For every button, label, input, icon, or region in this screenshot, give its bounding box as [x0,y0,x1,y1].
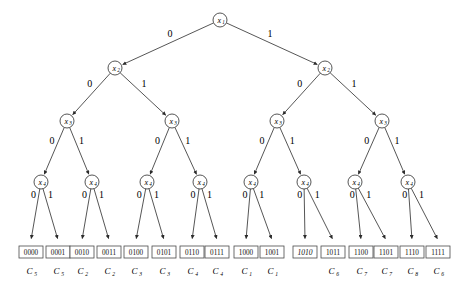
edge-label-left: 0 [297,78,302,89]
leaf-code-box[interactable]: 0000 [19,246,43,258]
edge-label-right: 1 [141,78,146,89]
leaf-code-box[interactable]: 0111 [205,246,229,258]
class-labels-group: C5C5C2C2C3C3C4C4C1C1C6C7C7C8C6 [26,266,444,277]
node-variable-subscript: 3 [174,120,177,126]
leaf-code-box[interactable]: 1111 [426,246,450,258]
node-variable-letter: x [197,178,202,187]
leaf-code-box[interactable]: 0011 [97,246,121,258]
leaf-code-text: 0111 [210,249,224,257]
node-variable-letter: x [112,64,117,73]
tree-node-x3[interactable]: x3 [270,114,284,128]
leaf-code-text: 0101 [157,249,172,257]
node-variable-letter: x [38,178,43,187]
tree-node-x4[interactable]: x4 [85,175,99,189]
leaf-code-box[interactable]: 1110 [400,246,424,258]
edge-label-left: 0 [87,78,92,89]
leaf-edge-label-right: 1 [48,189,53,200]
class-subscript: 1 [275,271,278,277]
leaf-code-box[interactable]: 0110 [180,246,204,258]
leaf-edge-label-right: 1 [315,189,320,200]
class-letter: C [407,266,414,276]
leaf-code-box[interactable]: 1011 [321,246,345,258]
class-subscript: 7 [389,271,392,277]
node-variable-letter: x [248,178,253,187]
leaf-class-label: C2 [104,266,115,277]
tree-node-x4[interactable]: x4 [348,175,362,189]
leaf-edge-label-right: 1 [207,189,212,200]
leaf-edge-label-left: 0 [243,189,248,200]
leaf-code-text: 1110 [405,249,419,257]
tree-node-x4[interactable]: x4 [297,175,311,189]
leaf-code-text: 1100 [354,249,369,257]
node-variable-letter: x [405,178,410,187]
class-letter: C [356,266,363,276]
tree-node-x1[interactable]: x1 [213,13,227,27]
leaf-code-box[interactable]: 1001 [260,246,284,258]
leaf-class-label: C3 [131,266,142,277]
leaf-class-label: C7 [381,266,392,277]
leaf-code-text: 1001 [265,249,280,257]
node-variable-subscript: 4 [94,181,97,187]
node-variable-letter: x [322,64,327,73]
leaf-code-box[interactable]: 0101 [152,246,176,258]
class-letter: C [159,266,166,276]
leaf-class-label: C6 [433,266,444,277]
edge-label-left: 0 [260,135,265,146]
leaf-class-label: C5 [53,266,64,277]
tree-node-x4[interactable]: x4 [401,175,415,189]
leaf-code-box[interactable]: 1000 [234,246,258,258]
node-variable-letter: x [274,117,279,126]
leaf-code-box[interactable]: 1010 [293,246,317,258]
node-variable-subscript: 2 [327,67,330,73]
tree-node-x3[interactable]: x3 [375,114,389,128]
tree-node-x2[interactable]: x2 [318,61,332,75]
leaf-edge-label-left: 0 [31,189,36,200]
leaf-code-text: 1010 [297,248,312,257]
node-variable-subscript: 4 [306,181,309,187]
edge-label-right: 1 [394,135,399,146]
tree-node-x4[interactable]: x4 [193,175,207,189]
tree-node-x4[interactable]: x4 [140,175,154,189]
leaf-code-box[interactable]: 0010 [70,246,94,258]
tree-node-x2[interactable]: x2 [108,61,122,75]
class-subscript: 5 [61,271,64,277]
class-letter: C [104,266,111,276]
class-subscript: 2 [112,271,115,277]
leaf-arrows-group: 0101010101010101 [31,188,437,239]
tree-node-x4[interactable]: x4 [34,175,48,189]
leaf-code-text: 0000 [24,249,39,257]
class-letter: C [53,266,60,276]
leaf-edge-label-right: 1 [154,189,159,200]
leaf-code-box[interactable]: 1101 [374,246,398,258]
node-variable-subscript: 4 [410,181,413,187]
leaf-code-box[interactable]: 1100 [349,246,373,258]
node-variable-letter: x [217,16,222,25]
tree-node-x3[interactable]: x3 [60,114,74,128]
edge-label-right: 1 [268,28,273,39]
leaf-code-text: 0110 [185,249,200,257]
class-subscript: 3 [138,271,142,277]
leaf-edge-right [307,188,332,238]
node-variable-letter: x [352,178,357,187]
class-subscript: 8 [415,271,418,277]
leaf-class-label: C4 [212,266,223,277]
tree-node-x4[interactable]: x4 [244,175,258,189]
node-variable-subscript: 1 [222,19,225,25]
figure-canvas: 01010101010101 x1x2x2x3x3x3x3x4x4x4x4x4x… [0,0,452,297]
node-variable-subscript: 4 [357,181,360,187]
edge-label-left: 0 [50,135,55,146]
class-letter: C [433,266,440,276]
tree-edges-group [44,23,404,174]
leaf-edge-label-right: 1 [419,189,424,200]
tree-node-x3[interactable]: x3 [165,114,179,128]
leaf-code-box[interactable]: 0001 [46,246,70,258]
edge-label-left: 0 [155,135,160,146]
class-subscript: 7 [364,271,367,277]
leaf-edge-label-left: 0 [402,189,407,200]
leaf-class-label: C7 [356,266,367,277]
node-variable-subscript: 4 [253,181,256,187]
leaf-edge-right [411,188,437,238]
leaf-edge-right [358,188,385,239]
leaf-class-label: C8 [407,266,418,277]
leaf-code-box[interactable]: 0100 [124,246,148,258]
